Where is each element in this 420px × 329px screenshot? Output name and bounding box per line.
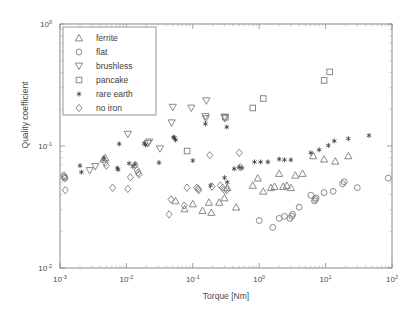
legend-label: no iron: [96, 103, 122, 113]
scatter-plot: ferriteflatbrushlesspancakerare earthno …: [0, 0, 420, 329]
figure-container: ferriteflatbrushlesspancakerare earthno …: [0, 0, 420, 329]
legend-label: rare earth: [96, 89, 133, 99]
x-axis-label: Torque [Nm]: [203, 291, 249, 301]
legend[interactable]: ferriteflatbrushlesspancakerare earthno …: [63, 27, 156, 115]
legend-label: ferrite: [96, 33, 118, 43]
legend-label: brushless: [96, 61, 132, 71]
legend-label: pancake: [96, 75, 128, 85]
legend-label: flat: [96, 47, 108, 57]
